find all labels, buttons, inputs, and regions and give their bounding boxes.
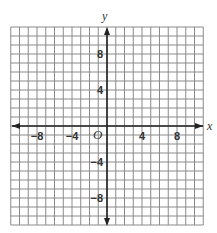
y-tick-label: −8 <box>90 192 103 204</box>
x-tick-label: 4 <box>139 130 146 142</box>
y-tick-label: 4 <box>97 84 104 96</box>
x-axis-arrow-right <box>195 123 203 129</box>
origin-label: O <box>93 127 103 142</box>
x-tick-label: −8 <box>31 130 44 142</box>
y-axis-label: y <box>101 9 108 23</box>
x-axis-label: x <box>206 119 213 133</box>
y-tick-label: −4 <box>90 156 103 168</box>
coordinate-plane: −8−44884−4−8 x y O <box>0 0 217 233</box>
x-axis-arrow-left <box>12 123 20 129</box>
y-axis-arrow-up <box>104 27 110 35</box>
axes <box>12 27 203 226</box>
y-tick-label: 8 <box>97 48 103 60</box>
x-tick-label: −4 <box>66 130 79 142</box>
x-tick-label: 8 <box>174 130 180 142</box>
